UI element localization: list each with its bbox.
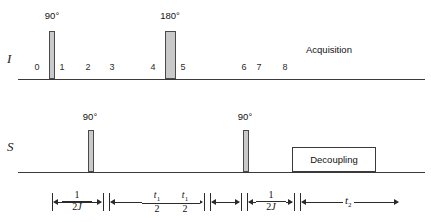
i-tick-7: 7 [254, 63, 264, 72]
channel-s-baseline [18, 172, 425, 173]
s-pulse-1-flip-label: 90° [70, 112, 110, 122]
timing-interval-2-numerator: t1 [142, 190, 172, 203]
i-pulse-2-flip-label: 180° [150, 11, 190, 21]
timing-delimiter-8 [294, 193, 295, 211]
channel-i-baseline [18, 79, 425, 80]
i-pulse-1-flip-label: 90° [32, 11, 72, 21]
channel-label-i: I [7, 52, 11, 65]
i-tick-8: 8 [280, 63, 290, 72]
i-pulse-1-90deg [49, 31, 55, 79]
s-pulse-1-90deg [88, 130, 94, 172]
i-pulse-2-180deg [165, 31, 176, 79]
timing-arrowhead-3-right [235, 199, 240, 205]
timing-interval-3-denominator: 2 [170, 203, 200, 215]
timing-arrowhead-1-left [53, 199, 58, 205]
timing-interval-3-numerator: t1 [170, 190, 200, 203]
timing-arrowhead-1-right [97, 199, 102, 205]
s-pulse-2-90deg [243, 130, 249, 172]
acquisition-label: Acquisition [306, 45, 352, 55]
channel-label-s: S [7, 140, 14, 153]
timing-delimiter-2 [103, 193, 104, 211]
timing-interval-1-numerator: 1 [62, 190, 92, 201]
timing-interval-1-denominator: 2J [62, 201, 92, 213]
timing-interval-4-fraction: 1 2J [256, 190, 286, 212]
timing-delimiter-6 [241, 193, 242, 211]
decoupling-box: Decoupling [292, 147, 376, 172]
pulse-sequence-diagram: I 90° 180° 0 1 2 3 4 5 6 7 8 Acquisition… [0, 0, 431, 222]
timing-interval-5-symbol: t2 [343, 195, 354, 209]
timing-arrowhead-4-right [288, 199, 293, 205]
decoupling-label: Decoupling [310, 155, 358, 165]
timing-delimiter-4 [204, 193, 205, 211]
s-pulse-2-flip-label: 90° [225, 112, 265, 122]
i-tick-4: 4 [148, 63, 158, 72]
timing-interval-1-fraction: 1 2J [62, 190, 92, 212]
timing-interval-2-denominator: 2 [142, 203, 172, 215]
timing-arrowhead-2-left [110, 199, 115, 205]
timing-interval-3-fraction: t1 2 [170, 190, 200, 215]
timing-arrowhead-5-left [301, 199, 306, 205]
i-tick-1: 1 [57, 63, 67, 72]
timing-arrowhead-3-left [211, 199, 216, 205]
i-tick-2: 2 [83, 63, 93, 72]
timing-interval-4-denominator: 2J [256, 201, 286, 213]
i-tick-6: 6 [239, 63, 249, 72]
timing-arrowhead-5-right [394, 199, 399, 205]
i-tick-0: 0 [32, 63, 42, 72]
timing-arrowhead-4-left [248, 199, 253, 205]
i-tick-3: 3 [107, 63, 117, 72]
timing-interval-2-fraction: t1 2 [142, 190, 172, 215]
timing-interval-4-numerator: 1 [256, 190, 286, 201]
i-tick-5: 5 [178, 63, 188, 72]
